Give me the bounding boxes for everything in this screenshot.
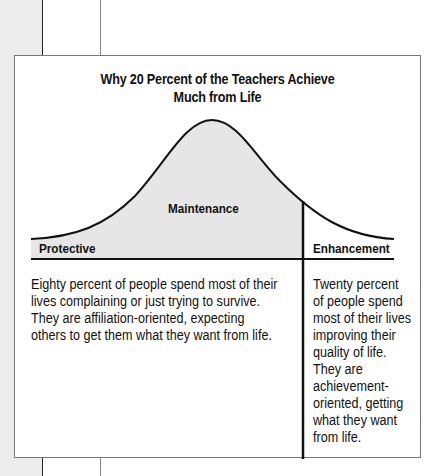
label-protective: Protective — [39, 241, 96, 257]
label-enhancement: Enhancement — [313, 241, 390, 257]
enhancement-description: Twenty percent of people spend most of t… — [313, 276, 412, 446]
maintenance-shaded-area — [31, 120, 303, 259]
protective-description: Eighty percent of people spend most of t… — [31, 276, 279, 344]
label-maintenance: Maintenance — [168, 201, 239, 217]
figure-box: Why 20 Percent of the Teachers Achieve M… — [14, 55, 421, 458]
